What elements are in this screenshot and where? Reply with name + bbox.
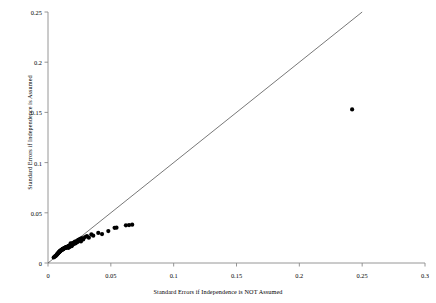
x-tick-label: 0.2 xyxy=(295,272,303,279)
identity-reference-line xyxy=(48,12,362,263)
y-axis-ticks xyxy=(45,12,49,263)
x-tick-label: 0.25 xyxy=(357,272,368,279)
x-tick-label: 0 xyxy=(46,272,49,279)
scatter-point xyxy=(106,229,110,233)
scatter-point xyxy=(96,231,100,235)
x-tick-label: 0.15 xyxy=(231,272,242,279)
axes xyxy=(48,12,425,263)
y-tick-label: 0.25 xyxy=(31,9,42,16)
scatter-point xyxy=(91,234,95,238)
scatter-point xyxy=(87,236,91,240)
x-axis-title: Standard Errors if Independence is NOT A… xyxy=(0,288,436,295)
scatter-plot-figure: 00.050.10.150.20.250.3 00.050.10.150.20.… xyxy=(0,0,436,303)
x-tick-label: 0.3 xyxy=(421,272,429,279)
identity-line xyxy=(48,12,362,263)
x-axis-ticks xyxy=(48,263,425,267)
y-tick-label: 0 xyxy=(39,260,42,267)
plot-canvas xyxy=(0,0,436,303)
x-tick-label: 0.1 xyxy=(170,272,178,279)
y-tick-label: 0.1 xyxy=(34,159,42,166)
x-tick-label: 0.05 xyxy=(105,272,116,279)
data-points xyxy=(52,107,355,259)
scatter-point xyxy=(114,226,118,230)
scatter-point xyxy=(350,107,354,111)
y-axis-title: Standard Errors if Independence is Assum… xyxy=(26,28,33,238)
scatter-point xyxy=(100,232,104,236)
y-tick-label: 0.2 xyxy=(34,59,42,66)
scatter-point xyxy=(130,223,134,227)
